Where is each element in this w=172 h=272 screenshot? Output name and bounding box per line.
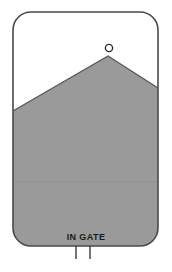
apex-circle-icon: [105, 44, 112, 51]
in-gate-label: IN GATE: [67, 232, 106, 242]
in-gate-diagram: IN GATE: [0, 0, 172, 272]
diagram-canvas: IN GATE: [0, 0, 172, 272]
